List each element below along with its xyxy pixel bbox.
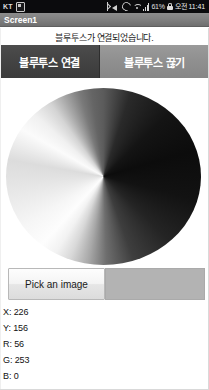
frame-right-edge [208, 28, 209, 390]
bluetooth-disconnect-button[interactable]: 블루투스 끊기 [100, 45, 209, 78]
volume-mute-icon [112, 3, 120, 11]
wifi-icon [133, 3, 141, 10]
readout-b: B: 0 [3, 368, 209, 384]
bluetooth-icon [105, 2, 110, 11]
bluetooth-connect-button[interactable]: 블루투스 연결 [0, 45, 100, 78]
phone-screen: KT 61% 오전 11:41 Screen1 블루투스가 연결되었습니다. 블… [0, 0, 209, 390]
sim-card-icon [16, 2, 25, 12]
status-bar-icons: 61% 오전 11:41 [105, 0, 207, 13]
sync-icon [121, 0, 133, 12]
carrier-label: KT [2, 0, 13, 13]
screen-lock-icon [167, 3, 173, 11]
image-preview[interactable] [105, 268, 205, 300]
signal-bars-icon [143, 3, 149, 11]
grayscale-color-wheel-icon[interactable] [6, 88, 201, 265]
color-wheel-area [0, 78, 209, 265]
pick-an-image-button[interactable]: Pick an image [8, 268, 105, 300]
page-title: Screen1 [4, 15, 37, 25]
bluetooth-button-row: 블루투스 연결 블루투스 끊기 [0, 45, 209, 78]
pixel-readout-list: X: 226 Y: 156 R: 56 G: 253 B: 0 [0, 304, 209, 384]
readout-y: Y: 156 [3, 320, 209, 336]
pick-image-row: Pick an image [0, 268, 209, 301]
readout-g: G: 253 [3, 352, 209, 368]
app-body: 블루투스가 연결되었습니다. 블루투스 연결 블루투스 끊기 Pick an i… [0, 28, 209, 390]
readout-x: X: 226 [3, 304, 209, 320]
bluetooth-status-message: 블루투스가 연결되었습니다. [0, 29, 209, 45]
status-bar: KT 61% 오전 11:41 [0, 0, 209, 13]
battery-percent-label: 61% [151, 0, 164, 13]
clock-label: 오전 11:41 [175, 0, 205, 13]
frame-left-edge [0, 28, 1, 390]
app-title-bar: Screen1 [0, 13, 209, 27]
readout-r: R: 56 [3, 336, 209, 352]
